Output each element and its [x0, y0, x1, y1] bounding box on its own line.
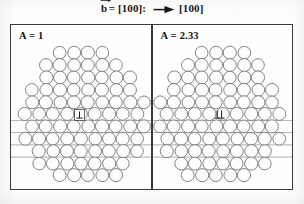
burgers-vector-symbol: b — [101, 2, 108, 14]
lattice-right — [153, 25, 293, 189]
burgers-vector-value: = [100]: — [108, 2, 146, 14]
double-dislocation-symbol — [213, 109, 228, 121]
figure-frame: A = 1 A = 2.33 — [10, 24, 293, 190]
panel-right-label: A = 2.33 — [161, 30, 199, 41]
panel-left-label: A = 1 — [19, 30, 44, 41]
panel-left: A = 1 — [11, 25, 151, 189]
burgers-b-letter: b — [101, 2, 107, 14]
direction-label: [100] — [179, 2, 203, 14]
figure-header: b = [100]: [100] — [0, 2, 304, 14]
figure-root: b = [100]: [100] A = 1 — [0, 0, 304, 204]
panel-right: A = 2.33 — [153, 25, 293, 189]
single-dislocation-symbol — [74, 109, 85, 121]
lattice-left — [11, 25, 151, 189]
right-arrow-icon — [153, 5, 175, 14]
vector-arrow-icon — [100, 0, 111, 2]
header-row: b = [100]: [100] — [101, 2, 204, 14]
